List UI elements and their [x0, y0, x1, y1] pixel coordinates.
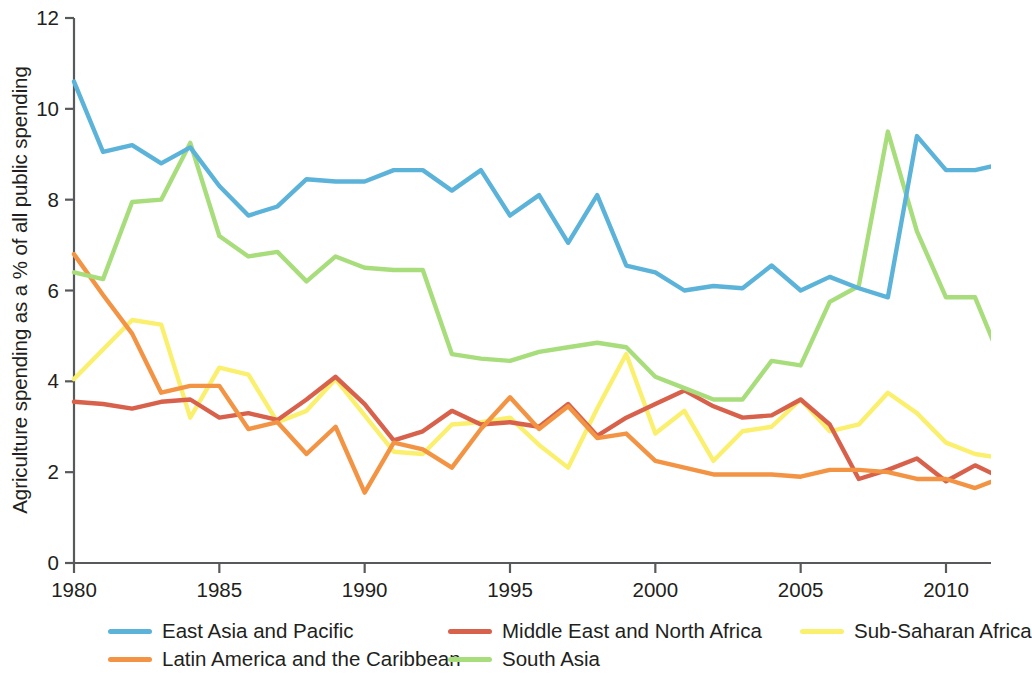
legend-label: Sub-Saharan Africa [854, 617, 1032, 645]
x-axis-tick-label: 1990 [342, 578, 388, 601]
legend-item-sub-saharan-africa[interactable]: Sub-Saharan Africa [800, 617, 1032, 645]
legend-swatch-icon [108, 657, 152, 662]
legend-item-latin-america-and-the-caribbean[interactable]: Latin America and the Caribbean [108, 645, 461, 673]
y-axis-tick-label: 2 [48, 460, 59, 483]
y-axis-tick-label: 12 [36, 6, 59, 29]
legend-label: East Asia and Pacific [162, 617, 353, 645]
series-line-sub-saharan-africa [74, 320, 991, 468]
y-axis-tick-label: 8 [48, 188, 59, 211]
x-axis-tick-label: 2000 [633, 578, 679, 601]
legend-item-south-asia[interactable]: South Asia [448, 645, 600, 673]
legend-swatch-icon [800, 629, 844, 634]
legend-swatch-icon [108, 629, 152, 634]
chart-legend: East Asia and PacificMiddle East and Nor… [108, 617, 992, 674]
plot-area: 0246810121980198519901995200020052010 [0, 0, 991, 614]
x-axis-tick-label: 1995 [487, 578, 533, 601]
y-axis-tick-label: 4 [48, 369, 59, 392]
legend-swatch-icon [448, 629, 492, 634]
legend-row-2: Latin America and the CaribbeanSouth Asi… [108, 645, 992, 673]
y-axis-tick-label: 6 [48, 279, 59, 302]
y-axis-tick-label: 10 [36, 97, 59, 120]
series-line-middle-east-and-north-africa [74, 377, 991, 481]
x-axis-tick-label: 2005 [778, 578, 824, 601]
legend-item-east-asia-and-pacific[interactable]: East Asia and Pacific [108, 617, 353, 645]
series-line-south-asia [74, 132, 991, 400]
y-axis-tick-label: 0 [48, 551, 59, 574]
legend-label: Latin America and the Caribbean [162, 645, 461, 673]
legend-row-1: East Asia and PacificMiddle East and Nor… [108, 617, 992, 645]
series-line-east-asia-and-pacific [74, 82, 991, 298]
legend-label: Middle East and North Africa [502, 617, 762, 645]
x-axis-tick-label: 1985 [197, 578, 243, 601]
legend-label: South Asia [502, 645, 600, 673]
x-axis-tick-label: 2010 [923, 578, 969, 601]
x-axis-tick-label: 1980 [51, 578, 97, 601]
legend-swatch-icon [448, 657, 492, 662]
legend-item-middle-east-and-north-africa[interactable]: Middle East and North Africa [448, 617, 762, 645]
